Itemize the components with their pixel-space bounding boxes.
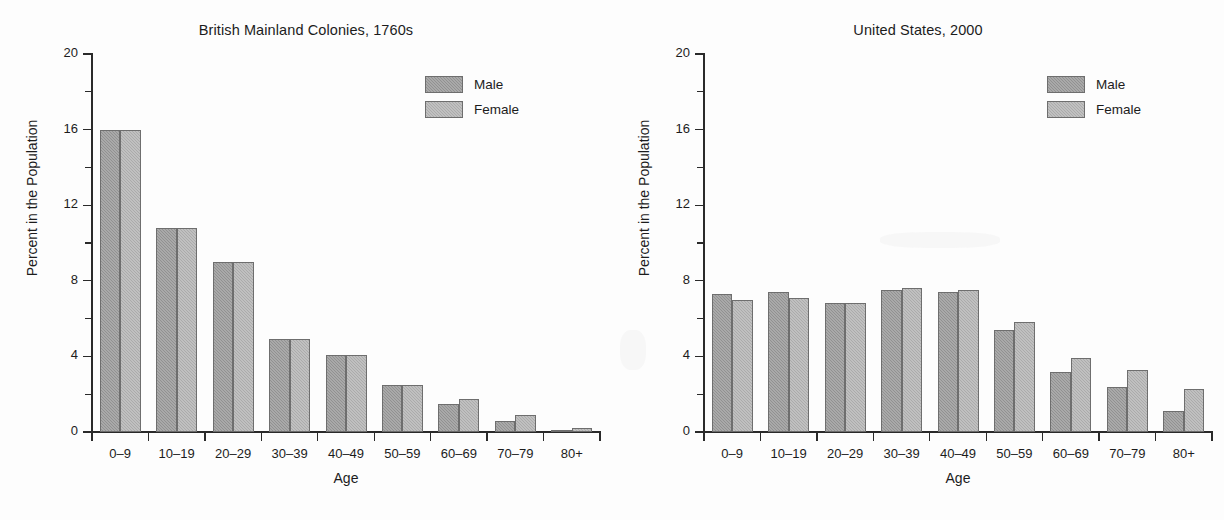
- bar-female: [402, 385, 423, 432]
- bar-female: [346, 355, 367, 432]
- bar-female: [1184, 389, 1205, 432]
- x-tick: [204, 432, 205, 441]
- bar-female: [1127, 370, 1148, 432]
- bar-male: [1050, 372, 1071, 432]
- bar-female: [515, 415, 536, 432]
- y-tick-label: 16: [38, 121, 78, 136]
- bar-male: [156, 228, 177, 432]
- x-tick: [91, 432, 92, 441]
- x-tick: [703, 432, 704, 441]
- y-tick-label: 0: [650, 423, 690, 438]
- bar-female: [459, 399, 480, 432]
- bar-female: [958, 290, 979, 432]
- legend-label-female: Female: [474, 102, 519, 117]
- bar-female: [845, 303, 866, 432]
- y-tick-label: 12: [38, 196, 78, 211]
- legend-swatch-male-icon: [425, 76, 463, 93]
- bar-male: [712, 294, 733, 432]
- x-tick: [374, 432, 375, 441]
- bar-male: [495, 421, 516, 432]
- x-tick: [1098, 432, 1099, 441]
- bar-male: [768, 292, 789, 432]
- legend-label-female: Female: [1096, 102, 1141, 117]
- x-tick-label: 10–19: [142, 446, 212, 461]
- bar-male: [825, 303, 846, 432]
- plot-area-left: [92, 54, 600, 432]
- bar-female: [789, 298, 810, 432]
- bar-male: [269, 339, 290, 432]
- bar-male: [881, 290, 902, 432]
- y-tick-label: 0: [38, 423, 78, 438]
- x-tick-label: 80+: [537, 446, 607, 461]
- x-tick: [873, 432, 874, 441]
- x-tick-label: 20–29: [810, 446, 880, 461]
- x-tick-label: 60–69: [1036, 446, 1106, 461]
- bar-male: [213, 262, 234, 432]
- bar-female: [1014, 322, 1035, 432]
- y-tick-label: 20: [650, 45, 690, 60]
- bar-female: [1071, 358, 1092, 432]
- x-tick: [1042, 432, 1043, 441]
- legend-left: Male Female: [425, 72, 519, 122]
- bar-female: [177, 228, 198, 432]
- x-tick-label: 0–9: [697, 446, 767, 461]
- chart-panel-left: British Mainland Colonies, 1760s 0481216…: [0, 0, 612, 520]
- x-tick-label: 40–49: [311, 446, 381, 461]
- bar-male: [551, 430, 572, 432]
- x-tick-label: 50–59: [367, 446, 437, 461]
- legend-item-female: Female: [1047, 97, 1141, 122]
- bar-male: [1107, 387, 1128, 432]
- bar-male: [326, 355, 347, 432]
- legend-swatch-male-icon: [1047, 76, 1085, 93]
- bar-female: [290, 339, 311, 432]
- y-tick-label: 4: [38, 347, 78, 362]
- x-tick: [261, 432, 262, 441]
- x-tick: [816, 432, 817, 441]
- bar-female: [732, 300, 753, 432]
- x-tick: [430, 432, 431, 441]
- x-tick: [599, 432, 600, 441]
- x-tick: [148, 432, 149, 441]
- x-tick: [986, 432, 987, 441]
- x-tick-label: 80+: [1149, 446, 1219, 461]
- legend-label-male: Male: [1096, 77, 1125, 92]
- x-tick: [760, 432, 761, 441]
- y-tick-label: 16: [650, 121, 690, 136]
- legend-swatch-female-icon: [1047, 101, 1085, 118]
- legend-item-female: Female: [425, 97, 519, 122]
- x-tick: [543, 432, 544, 441]
- x-tick: [317, 432, 318, 441]
- x-tick-label: 20–29: [198, 446, 268, 461]
- x-tick: [929, 432, 930, 441]
- y-tick-label: 4: [650, 347, 690, 362]
- bar-male: [438, 404, 459, 432]
- population-pyramid-figure: British Mainland Colonies, 1760s 0481216…: [0, 0, 1224, 520]
- chart-title-right: United States, 2000: [612, 22, 1224, 38]
- x-tick-label: 30–39: [867, 446, 937, 461]
- x-tick: [1155, 432, 1156, 441]
- bar-male: [100, 130, 121, 432]
- x-tick-label: 0–9: [85, 446, 155, 461]
- y-axis-title-right: Percent in the Population: [636, 48, 652, 348]
- x-tick-label: 40–49: [923, 446, 993, 461]
- x-tick-label: 70–79: [480, 446, 550, 461]
- x-tick: [486, 432, 487, 441]
- legend-label-male: Male: [474, 77, 503, 92]
- bar-female: [572, 428, 593, 432]
- x-axis-title-right: Age: [704, 470, 1212, 486]
- bar-female: [902, 288, 923, 432]
- chart-title-left: British Mainland Colonies, 1760s: [0, 22, 612, 38]
- y-tick-label: 8: [38, 272, 78, 287]
- x-tick-label: 30–39: [255, 446, 325, 461]
- x-axis-title-left: Age: [92, 470, 600, 486]
- x-tick: [1211, 432, 1212, 441]
- legend-item-male: Male: [425, 72, 519, 97]
- bar-male: [938, 292, 959, 432]
- chart-panel-right: United States, 2000 048121620 0–910–1920…: [612, 0, 1224, 520]
- y-tick-label: 12: [650, 196, 690, 211]
- legend-right: Male Female: [1047, 72, 1141, 122]
- y-tick-label: 8: [650, 272, 690, 287]
- y-axis-title-left: Percent in the Population: [24, 48, 40, 348]
- bar-male: [994, 330, 1015, 432]
- bar-male: [382, 385, 403, 432]
